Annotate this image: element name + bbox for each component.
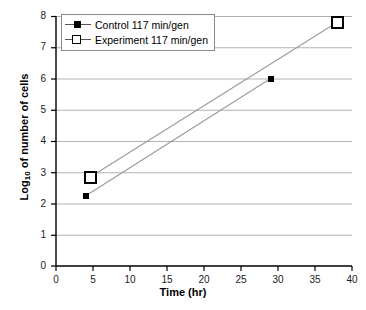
x-tick-label: 30: [263, 274, 293, 285]
data-point-experiment: [331, 16, 344, 29]
legend: Control 117 min/gen Experiment 117 min/g…: [61, 14, 215, 51]
legend-label-control: Control 117 min/gen: [95, 19, 189, 31]
legend-label-experiment: Experiment 117 min/gen: [95, 34, 208, 46]
legend-marker-open-square-icon: [65, 34, 91, 46]
x-tick-label: 35: [300, 274, 330, 285]
x-axis-ticks: [56, 266, 352, 271]
x-tick-label: 0: [41, 274, 71, 285]
x-tick-label: 20: [189, 274, 219, 285]
data-point-experiment: [84, 171, 97, 184]
x-tick-label: 10: [115, 274, 145, 285]
y-tick-label: 8: [22, 10, 46, 21]
y-axis-ticks: [51, 17, 56, 267]
x-tick-label: 5: [78, 274, 108, 285]
y-axis-title: Log10 of number of cells: [18, 37, 30, 237]
legend-item-experiment: Experiment 117 min/gen: [65, 32, 208, 47]
chart-figure: 8 7 6 5 4 3 2 1 0 0 5 10 15 20 25 30 35 …: [0, 0, 366, 310]
data-point-control: [268, 76, 274, 82]
y-axis-title-base: Log: [18, 180, 30, 200]
data-point-control: [83, 193, 89, 199]
x-axis-title: Time (hr): [0, 286, 366, 298]
y-axis-title-subscript: 10: [23, 171, 32, 180]
x-tick-label: 40: [337, 274, 366, 285]
legend-item-control: Control 117 min/gen: [65, 17, 208, 32]
x-tick-label: 25: [226, 274, 256, 285]
legend-marker-filled-square-icon: [65, 19, 91, 31]
y-axis-title-rest: of number of cells: [18, 74, 30, 172]
y-tick-label: 0: [22, 260, 46, 271]
x-tick-label: 15: [152, 274, 182, 285]
